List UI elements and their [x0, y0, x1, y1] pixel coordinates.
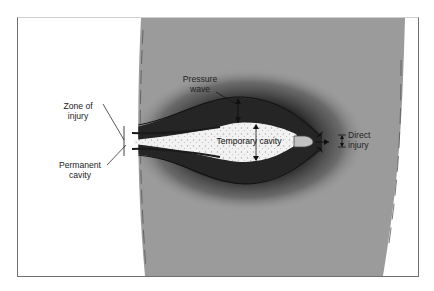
temporary-cavity-label: Temporary cavity [204, 136, 294, 146]
bullet [294, 136, 313, 147]
direct-injury-label: Direct injury [348, 130, 382, 150]
zone-of-injury-label: Zone of injury [48, 101, 108, 121]
pressure-wave-label: Pressure wave [150, 74, 250, 94]
permanent-cavity-label: Permanent cavity [48, 160, 112, 180]
